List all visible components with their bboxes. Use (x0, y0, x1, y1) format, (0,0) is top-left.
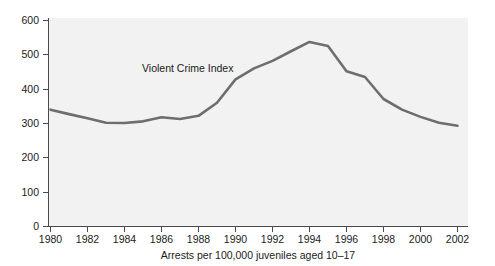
x-tick-label: 2002 (446, 233, 470, 245)
y-tick-label: 500 (21, 48, 39, 60)
y-tick-label: 200 (21, 151, 39, 163)
x-tick-label: 1992 (261, 233, 285, 245)
x-tick-label: 1986 (150, 233, 174, 245)
y-tick-label: 600 (21, 14, 39, 26)
x-axis-caption: Arrests per 100,000 juveniles aged 10–17 (161, 249, 356, 261)
y-tick-label: 400 (21, 83, 39, 95)
x-tick-label: 1990 (224, 233, 248, 245)
line-chart: 0 100 200 300 400 500 600 1980 1982 (0, 0, 495, 266)
x-axis-tick-labels: 1980 1982 1984 1986 1988 1990 1992 1994 … (39, 233, 470, 245)
series-annotation-label: Violent Crime Index (142, 62, 234, 74)
x-tick-label: 1982 (76, 233, 100, 245)
x-tick-label: 1996 (335, 233, 359, 245)
x-tick-label: 1998 (372, 233, 396, 245)
y-axis-tick-labels: 0 100 200 300 400 500 600 (21, 14, 39, 232)
x-axis-ticks (51, 227, 458, 232)
x-tick-label: 1994 (298, 233, 322, 245)
x-tick-label: 1984 (113, 233, 137, 245)
y-tick-label: 300 (21, 117, 39, 129)
y-tick-label: 100 (21, 186, 39, 198)
x-tick-label: 2000 (409, 233, 433, 245)
chart-figure: 0 100 200 300 400 500 600 1980 1982 (0, 0, 495, 266)
x-tick-label: 1988 (187, 233, 211, 245)
x-tick-label: 1980 (39, 233, 63, 245)
y-tick-label: 0 (33, 220, 39, 232)
y-axis-ticks (43, 20, 49, 226)
